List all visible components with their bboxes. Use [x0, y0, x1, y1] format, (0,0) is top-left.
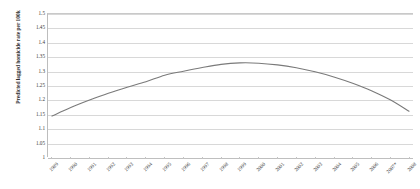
x-axis-tickmark	[108, 157, 109, 159]
x-axis-tick-label: 1990	[66, 161, 78, 173]
y-axis-tick-label: 1.25	[26, 82, 45, 88]
series-line-chart	[48, 14, 413, 157]
y-axis-tick-label: 1.5	[26, 10, 45, 16]
x-axis-tickmark	[202, 157, 203, 159]
x-axis-tick-label: 1998	[217, 161, 229, 173]
y-axis-tick-label: 1.3	[26, 68, 45, 74]
x-axis-tickmark	[89, 157, 90, 159]
x-axis-tickmark	[126, 157, 127, 159]
x-axis-tickmark	[183, 157, 184, 159]
y-axis-tick-label: 1.45	[26, 24, 45, 30]
y-axis-tick-label: 1.4	[26, 39, 45, 45]
x-axis-tickmark	[334, 157, 335, 159]
x-axis-tick-label: 2005	[349, 161, 361, 173]
y-axis-tick-label: 1	[26, 154, 45, 160]
x-axis-tick-label: 2008	[406, 161, 418, 173]
x-axis-tickmark	[258, 157, 259, 159]
x-axis-tick-label: 2000	[255, 161, 267, 173]
x-axis-tick-label: 1997	[198, 161, 210, 173]
x-axis-tickmark	[296, 157, 297, 159]
x-axis-tick-label: 1999	[236, 161, 248, 173]
x-axis-tickmark	[352, 157, 353, 159]
x-axis-tick-label: 1991	[85, 161, 97, 173]
y-axis-tick-label: 1.1	[26, 125, 45, 131]
y-axis-tick-labels: 11.051.11.151.21.251.31.351.41.451.5	[26, 13, 45, 157]
x-axis-tick-label: 1994	[142, 161, 154, 173]
x-axis-tick-label: 2006	[368, 161, 380, 173]
x-axis-tick-label: 2002	[293, 161, 305, 173]
x-axis-tickmark	[164, 157, 165, 159]
x-axis-tickmark	[315, 157, 316, 159]
x-axis-tickmark	[70, 157, 71, 159]
x-axis-tickmark	[371, 157, 372, 159]
x-axis-tickmark	[239, 157, 240, 159]
series-line-predicted-homicide-rate	[52, 63, 409, 116]
x-axis-tickmark	[409, 157, 410, 159]
plot-area	[47, 13, 413, 157]
x-axis-tick-label: 1993	[123, 161, 135, 173]
x-axis-tick-label: 1995	[161, 161, 173, 173]
x-axis-tickmark	[221, 157, 222, 159]
x-axis-tick-label: 2007*	[385, 161, 398, 174]
y-axis-tick-label: 1.15	[26, 111, 45, 117]
y-axis-tick-label: 1.35	[26, 53, 45, 59]
x-axis-tickmark	[51, 157, 52, 159]
x-axis-tickmark	[390, 157, 391, 159]
x-axis-tick-label: 1989	[48, 161, 60, 173]
y-axis-tick-label: 1.2	[26, 96, 45, 102]
x-axis-tickmark	[145, 157, 146, 159]
x-axis-tick-label: 1992	[104, 161, 116, 173]
y-axis-tick-label: 1.05	[26, 140, 45, 146]
x-axis-tickmark	[277, 157, 278, 159]
chart-container: Predicted lagged homicide rate per 100k …	[0, 0, 420, 189]
x-axis-tick-label: 2003	[311, 161, 323, 173]
x-axis-tick-label: 2001	[274, 161, 286, 173]
x-axis-tick-label: 2004	[330, 161, 342, 173]
x-axis-tick-labels: 1989199019911992199319941995199619971998…	[47, 157, 413, 189]
y-axis-title: Predicted lagged homicide rate per 100k	[15, 0, 21, 122]
x-axis-tick-label: 1996	[180, 161, 192, 173]
